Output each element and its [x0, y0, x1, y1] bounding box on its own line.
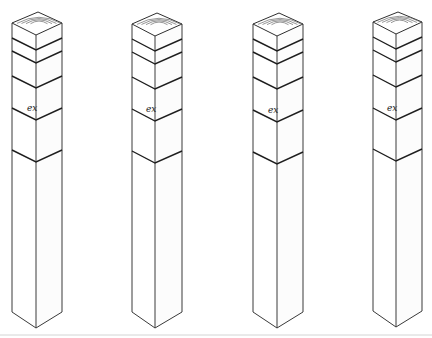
posts-diagram: exexexex	[0, 0, 432, 338]
post-1: ex	[12, 12, 62, 328]
posts-layer: exexexex	[12, 12, 422, 328]
post-left-face	[373, 22, 396, 327]
post-right-face	[36, 23, 62, 328]
handwritten-mark: ex	[146, 104, 156, 114]
post-left-face	[12, 23, 36, 328]
post-right-face	[155, 24, 182, 328]
post-2: ex	[132, 13, 182, 328]
handwritten-mark: ex	[268, 105, 278, 115]
post-right-face	[396, 22, 422, 327]
post-left-face	[132, 24, 155, 328]
post-right-face	[277, 24, 303, 328]
handwritten-mark: ex	[27, 103, 37, 113]
handwritten-mark: ex	[387, 103, 397, 113]
post-left-face	[253, 24, 277, 328]
post-4: ex	[373, 12, 422, 327]
post-3: ex	[253, 13, 303, 328]
